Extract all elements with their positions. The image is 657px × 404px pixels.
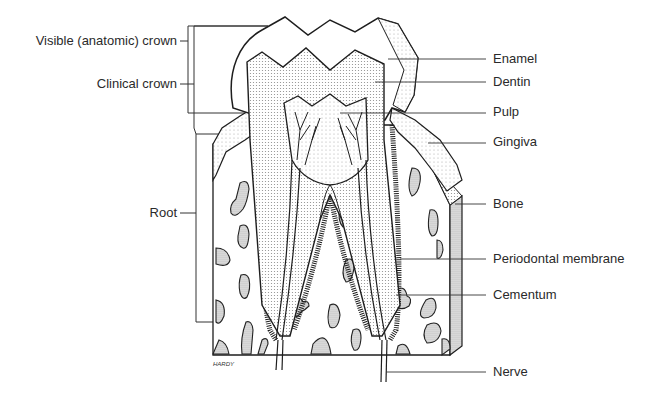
artist-signature: HARDY (213, 361, 235, 367)
tooth-illustration: HARDY (0, 0, 657, 404)
label-nerve: Nerve (493, 364, 528, 379)
label-pulp: Pulp (493, 104, 519, 119)
label-bone: Bone (493, 196, 523, 211)
label-enamel: Enamel (493, 51, 537, 66)
label-root: Root (150, 205, 177, 220)
label-dentin: Dentin (493, 74, 531, 89)
label-cementum: Cementum (493, 287, 557, 302)
label-periodontal-membrane: Periodontal membrane (493, 251, 625, 266)
label-visible-crown: Visible (anatomic) crown (36, 33, 177, 48)
label-clinical-crown: Clinical crown (97, 76, 177, 91)
label-gingiva: Gingiva (493, 134, 537, 149)
tooth-anatomy-diagram: HARDY Visible (anatomic) crown Clinical … (0, 0, 657, 404)
